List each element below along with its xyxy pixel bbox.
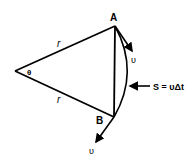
label-velocity-a: υ bbox=[131, 55, 136, 65]
label-point-a: A bbox=[110, 12, 117, 23]
arc-ab bbox=[114, 26, 127, 117]
circular-motion-diagram: A B r r θ υ υ S = υΔt bbox=[0, 0, 196, 162]
chord-ab bbox=[114, 26, 115, 117]
label-angle: θ bbox=[27, 68, 31, 77]
label-point-b: B bbox=[96, 115, 103, 126]
label-radius-top: r bbox=[57, 38, 61, 49]
radius-line-a bbox=[15, 26, 115, 71]
label-radius-bottom: r bbox=[57, 94, 61, 105]
radius-line-b bbox=[15, 71, 114, 117]
label-velocity-b: υ bbox=[89, 146, 94, 156]
label-arc-length: S = υΔt bbox=[153, 82, 184, 92]
